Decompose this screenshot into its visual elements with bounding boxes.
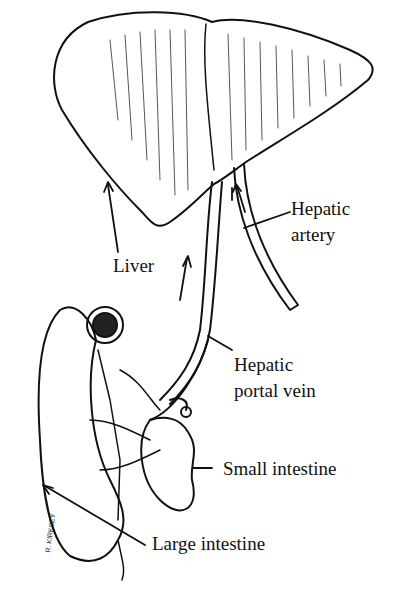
large-intestine-label: Large intestine xyxy=(152,533,265,555)
hepatic-artery-label-line1: Hepatic xyxy=(291,198,350,220)
hepatic-artery-label-line2: artery xyxy=(291,224,335,246)
anatomy-drawing xyxy=(0,0,396,616)
hepatic-portal-vein-label-line2: portal vein xyxy=(234,380,316,402)
hepatic-portal-diagram: Liver Hepatic artery Hepatic portal vein… xyxy=(0,0,396,616)
small-intestine-shape xyxy=(141,418,194,511)
hepatic-portal-vein-label-line1: Hepatic xyxy=(234,354,293,376)
liver-shape xyxy=(54,12,373,226)
hepatic-artery-shape xyxy=(234,164,298,310)
liver-label: Liver xyxy=(113,255,154,277)
small-intestine-label: Small intestine xyxy=(223,458,336,480)
portal-vein-shape xyxy=(160,182,212,400)
